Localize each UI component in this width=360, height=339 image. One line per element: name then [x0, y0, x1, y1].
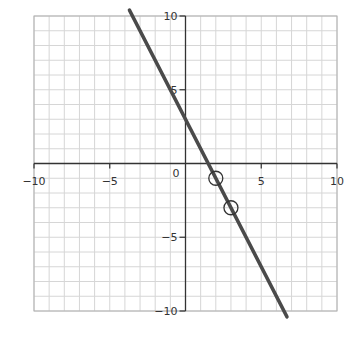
x-tick-label: 5 [258, 175, 265, 188]
x-tick-label: 10 [330, 175, 344, 188]
y-tick-label: −5 [161, 231, 177, 244]
x-tick-label: −5 [102, 175, 118, 188]
line-chart: −10−5510−10−55100 [0, 0, 360, 339]
origin-label: 0 [173, 167, 180, 180]
x-tick-label: −10 [22, 175, 45, 188]
y-tick-label: 10 [164, 10, 178, 23]
chart-area: −10−5510−10−55100 [0, 0, 360, 339]
y-tick-label: −10 [154, 305, 177, 318]
